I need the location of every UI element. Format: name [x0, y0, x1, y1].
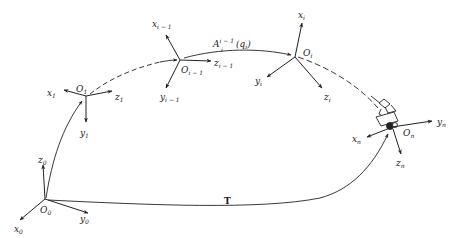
- z-n-label: zn: [395, 158, 405, 169]
- o1-label: O1: [76, 84, 87, 95]
- z0-axis-arrow: [43, 165, 45, 199]
- o0-label: O0: [40, 205, 51, 216]
- z1-axis-arrow: [86, 91, 112, 96]
- y-n-label: yn: [436, 117, 446, 128]
- x0-label: x0: [14, 224, 23, 235]
- frame-chain-diagram: z0 x0 y0 O0 x1 z1 y1 O1 xi − 1 zi − 1 yi…: [0, 0, 457, 238]
- x1-label: x1: [47, 88, 56, 99]
- frame-n: yn xn zn On: [352, 117, 446, 169]
- o-i-label: Oi: [303, 48, 312, 59]
- link-1-i-1-dashed-curve: [90, 62, 160, 94]
- z-i-1-label: zi − 1: [213, 58, 233, 69]
- y1-label: y1: [79, 128, 89, 139]
- y-i-1-label: yi − 1: [159, 92, 180, 103]
- z-i-axis-arrow: [295, 57, 322, 88]
- y-i-axis-arrow: [267, 57, 295, 77]
- link-i-n-dashed-curve: [298, 57, 378, 108]
- x-n-label: xn: [352, 134, 361, 145]
- y-i-label: yi: [254, 76, 262, 87]
- transform-a-sub-label: i: [221, 46, 223, 53]
- x-i-1-label: xi − 1: [152, 19, 172, 30]
- z1-label: z1: [114, 92, 124, 103]
- x-i-axis-arrow: [295, 23, 302, 57]
- o-i-1-label: Oi − 1: [181, 65, 203, 76]
- y-i-1-axis-arrow: [166, 60, 180, 88]
- link-0-1-curve: [46, 101, 82, 198]
- x-i-1-axis-arrow: [166, 35, 180, 60]
- z-i-1-axis-arrow: [180, 60, 211, 61]
- link-1-i-1-curve-end: [160, 60, 177, 62]
- x-n-axis-arrow: [367, 128, 390, 137]
- transform-a-label: Ai − 1(qi): [212, 37, 251, 50]
- o-n-label: On: [403, 128, 414, 139]
- y0-label: y0: [79, 214, 89, 225]
- frame-1: x1 z1 y1 O1: [47, 84, 124, 139]
- frame-0: z0 x0 y0 O0: [14, 155, 89, 235]
- link-total-transform-curve: [48, 134, 388, 205]
- z0-label: z0: [37, 155, 47, 166]
- y-n-axis-arrow: [392, 121, 432, 127]
- link-i-1-i-curve: [184, 50, 291, 58]
- total-transform-label: T: [224, 196, 231, 206]
- x-i-label: xi: [298, 10, 305, 21]
- gripper-icon: [371, 96, 398, 130]
- frame-i: xi yi zi Oi: [254, 10, 331, 103]
- z-i-label: zi: [323, 92, 331, 103]
- z-n-axis-arrow: [393, 129, 401, 154]
